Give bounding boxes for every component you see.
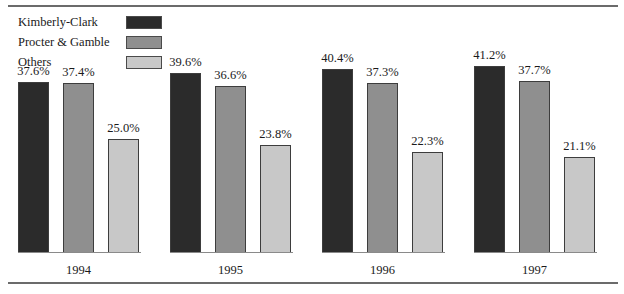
bar-value-label: 40.4%: [321, 51, 353, 66]
baseline-axis: [170, 252, 293, 253]
x-axis-tick-label: 1995: [170, 263, 291, 278]
bar-column: 21.1%: [564, 63, 595, 253]
bar-value-label: 37.7%: [518, 63, 550, 78]
bar-value-label: 39.6%: [169, 55, 201, 70]
bar: [322, 69, 353, 253]
x-axis-tick-label: 1997: [474, 263, 595, 278]
bar-value-label: 23.8%: [259, 127, 291, 142]
bar-column: 23.8%: [260, 63, 291, 253]
bar-value-label: 37.6%: [17, 64, 49, 79]
bar: [519, 81, 550, 253]
bar-group-bars: 41.2%37.7%21.1%: [474, 63, 595, 253]
bar: [63, 83, 94, 253]
bar: [564, 157, 595, 253]
bar: [108, 139, 139, 253]
bar-value-label: 41.2%: [473, 48, 505, 63]
baseline-axis: [18, 252, 141, 253]
bar-column: 37.3%: [367, 63, 398, 253]
bar-value-label: 25.0%: [107, 121, 139, 136]
bar-group-bars: 40.4%37.3%22.3%: [322, 63, 443, 253]
bar-chart-plot: 37.6%37.4%25.0%199439.6%36.6%23.8%199540…: [0, 0, 624, 294]
x-axis-tick-label: 1996: [322, 263, 443, 278]
bar-value-label: 37.4%: [62, 65, 94, 80]
bar: [260, 145, 291, 253]
bar-value-label: 37.3%: [366, 65, 398, 80]
bar-group-bars: 39.6%36.6%23.8%: [170, 63, 291, 253]
bar-value-label: 21.1%: [563, 139, 595, 154]
bar-column: 39.6%: [170, 63, 201, 253]
bar-group: 41.2%37.7%21.1%1997: [474, 38, 599, 253]
baseline-axis: [474, 252, 597, 253]
bar-column: 37.7%: [519, 63, 550, 253]
bar-column: 25.0%: [108, 63, 139, 253]
bar-column: 40.4%: [322, 63, 353, 253]
bar: [170, 73, 201, 253]
bar: [215, 86, 246, 253]
bar-group: 40.4%37.3%22.3%1996: [322, 38, 447, 253]
bar-column: 22.3%: [412, 63, 443, 253]
bar-column: 37.6%: [18, 63, 49, 253]
bar: [367, 83, 398, 253]
x-axis-tick-label: 1994: [18, 263, 139, 278]
bar-column: 37.4%: [63, 63, 94, 253]
bar-value-label: 36.6%: [214, 68, 246, 83]
bar: [18, 82, 49, 253]
bar-column: 41.2%: [474, 63, 505, 253]
bar-group: 37.6%37.4%25.0%1994: [18, 38, 143, 253]
bar: [412, 152, 443, 253]
bar-column: 36.6%: [215, 63, 246, 253]
bar-group: 39.6%36.6%23.8%1995: [170, 38, 295, 253]
baseline-axis: [322, 252, 445, 253]
bar-group-bars: 37.6%37.4%25.0%: [18, 63, 139, 253]
chart-figure: Kimberly-ClarkProcter & GambleOthers 37.…: [0, 0, 624, 294]
bar: [474, 66, 505, 253]
bar-value-label: 22.3%: [411, 134, 443, 149]
